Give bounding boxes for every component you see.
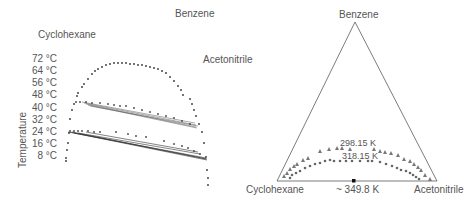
- marker-349K: [352, 179, 356, 183]
- series-318K-circles: [289, 159, 421, 181]
- ternary-plot: [0, 0, 475, 205]
- ternary-triangle: [277, 22, 437, 181]
- series-298K-triangles: [282, 146, 432, 181]
